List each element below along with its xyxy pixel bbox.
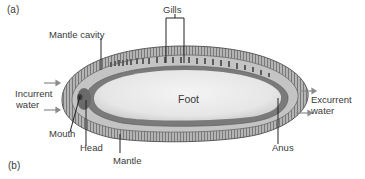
label-head: Head — [80, 142, 103, 153]
label-incurrent-1: Incurrent — [15, 88, 53, 99]
label-gills: Gills — [163, 4, 181, 15]
label-mantle: Mantle — [113, 155, 142, 166]
label-mantle-cavity: Mantle cavity — [49, 29, 104, 40]
label-incurrent-2: water — [16, 99, 39, 110]
label-mouth: Mouth — [49, 128, 75, 139]
label-excurrent-2: water — [311, 105, 334, 116]
label-foot: Foot — [178, 94, 199, 105]
mollusk-diagram — [0, 0, 365, 179]
label-excurrent-1: Excurrent — [311, 94, 352, 105]
label-anus: Anus — [272, 142, 294, 153]
